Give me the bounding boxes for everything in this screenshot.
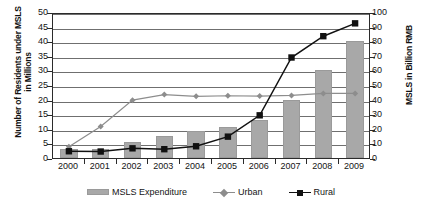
y-axis-right-tickmark [370, 130, 375, 131]
square-marker [225, 133, 231, 139]
y-axis-left-tick-label: 5 [26, 139, 48, 148]
y-axis-left-tick-label: 30 [26, 66, 48, 75]
x-axis-tick-label: 2005 [211, 161, 243, 171]
line-urban [69, 93, 355, 146]
y-axis-right-tickmark [370, 57, 375, 58]
square-marker [66, 148, 72, 154]
y-axis-right-tick-label: 10 [372, 139, 396, 148]
y-axis-left-tick-label: 25 [26, 81, 48, 90]
x-axis-tickmark [306, 159, 307, 164]
diamond-marker [193, 93, 199, 99]
y-axis-left-tickmark [47, 159, 52, 160]
y-axis-left-tickmark [47, 28, 52, 29]
legend-line-swatch-icon [289, 188, 311, 197]
y-axis-left-tick-label: 50 [26, 8, 48, 17]
y-axis-left-tickmark [47, 71, 52, 72]
y-axis-left-tick-label: 35 [26, 52, 48, 61]
legend-item[interactable]: Rural [289, 187, 336, 197]
y-axis-right-tick-label: 50 [372, 81, 396, 90]
line-series-group [53, 14, 371, 160]
square-marker [352, 20, 358, 26]
y-axis-left-tickmark [47, 42, 52, 43]
y-axis-right-tick-label: 70 [372, 52, 396, 61]
legend-item[interactable]: Urban [213, 187, 263, 197]
y-axis-right-tickmark [370, 13, 375, 14]
x-axis-tickmark [211, 159, 212, 164]
y-axis-right-tick-label: 20 [372, 125, 396, 134]
y-axis-left-tickmark [47, 144, 52, 145]
y-axis-left-ticks: 05101520253035404550 [26, 0, 48, 215]
square-marker-icon [297, 190, 303, 196]
x-axis-tickmark [116, 159, 117, 164]
x-axis-tickmark [338, 159, 339, 164]
x-axis-tick-label: 2009 [338, 161, 370, 171]
square-marker [288, 54, 294, 60]
y-axis-left-tickmark [47, 13, 52, 14]
x-axis-tick-label: 2008 [306, 161, 338, 171]
x-axis-tickmark [147, 159, 148, 164]
y-axis-right-title: MSLS in Billion RMB [404, 0, 414, 135]
square-marker [193, 143, 199, 149]
line-rural [69, 23, 355, 151]
diamond-marker [161, 92, 167, 98]
legend-item[interactable]: MSLS Expenditure [87, 187, 187, 197]
legend-label: Urban [238, 187, 263, 197]
x-axis-tickmark [243, 159, 244, 164]
y-axis-left-tickmark [47, 57, 52, 58]
figure-caption [4, 203, 421, 215]
x-axis-tick-label: 2000 [52, 161, 84, 171]
diamond-marker [320, 90, 326, 96]
y-axis-left-tick-label: 15 [26, 110, 48, 119]
y-axis-right-tick-label: 30 [372, 110, 396, 119]
y-axis-right-tick-label: 90 [372, 23, 396, 32]
y-axis-right-tickmark [370, 159, 375, 160]
y-axis-right-tick-label: 40 [372, 96, 396, 105]
x-axis-tick-label: 2006 [243, 161, 275, 171]
legend-bar-swatch-icon [87, 189, 109, 195]
x-axis-tick-label: 2003 [147, 161, 179, 171]
y-axis-right-tickmark [370, 71, 375, 72]
x-axis-tick-label: 2007 [275, 161, 307, 171]
x-axis-tick-label: 2004 [179, 161, 211, 171]
y-axis-left-tick-label: 45 [26, 23, 48, 32]
square-marker [320, 33, 326, 39]
y-axis-right-tickmark [370, 115, 375, 116]
y-axis-left-tickmark [47, 101, 52, 102]
y-axis-left-tick-label: 20 [26, 96, 48, 105]
square-marker [98, 148, 104, 154]
y-axis-right-tickmark [370, 101, 375, 102]
x-axis-tickmark [275, 159, 276, 164]
chart-legend: MSLS ExpenditureUrbanRural [52, 185, 370, 199]
y-axis-left-tickmark [47, 86, 52, 87]
y-axis-right-tick-label: 100 [372, 8, 396, 17]
diamond-marker [225, 93, 231, 99]
y-axis-right-tickmark [370, 144, 375, 145]
square-marker [161, 146, 167, 152]
legend-label: Rural [314, 187, 336, 197]
y-axis-right-tick-label: 0 [372, 154, 396, 163]
y-axis-left-tick-label: 0 [26, 154, 48, 163]
y-axis-right-tickmark [370, 42, 375, 43]
y-axis-left-tick-label: 40 [26, 37, 48, 46]
x-axis-tick-label: 2002 [116, 161, 148, 171]
y-axis-right-tick-label: 60 [372, 66, 396, 75]
legend-label: MSLS Expenditure [112, 187, 187, 197]
y-axis-right-tickmark [370, 86, 375, 87]
legend-line-swatch-icon [213, 188, 235, 197]
y-axis-right-tickmark [370, 28, 375, 29]
chart-figure: Number of Residents under MSLS in Millio… [0, 0, 425, 215]
square-marker [129, 145, 135, 151]
diamond-marker [257, 93, 263, 99]
x-axis-tickmark [84, 159, 85, 164]
square-marker [257, 112, 263, 118]
diamond-marker-icon [220, 188, 228, 196]
plot-area [52, 13, 370, 159]
y-axis-left-tick-label: 10 [26, 125, 48, 134]
x-axis-tick-label: 2001 [84, 161, 116, 171]
diamond-marker [289, 92, 295, 98]
diamond-marker [352, 90, 358, 96]
y-axis-right-tick-label: 80 [372, 37, 396, 46]
y-axis-left-tickmark [47, 130, 52, 131]
x-axis-tickmark [179, 159, 180, 164]
y-axis-left-tickmark [47, 115, 52, 116]
